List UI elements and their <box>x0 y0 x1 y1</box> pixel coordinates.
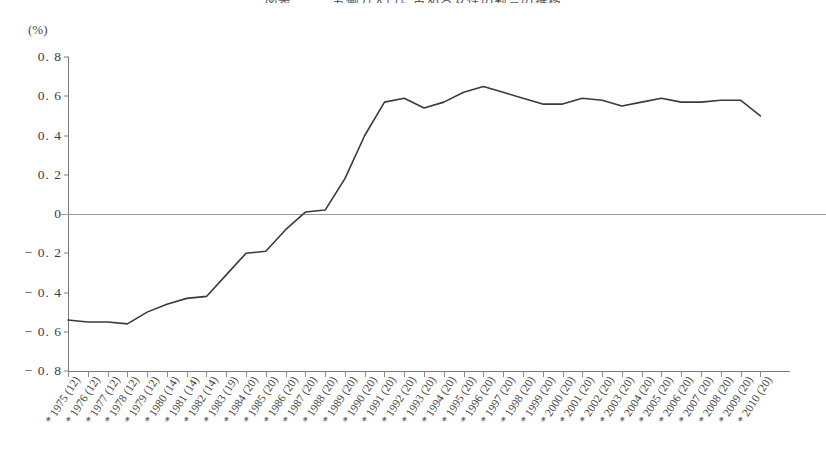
x-axis-tick-mark <box>68 371 69 377</box>
x-axis-tick-mark <box>325 371 326 377</box>
y-axis-tick-label: − 0. 6 <box>25 324 62 340</box>
zero-reference-line <box>60 214 826 215</box>
x-axis-tick-mark <box>167 371 168 377</box>
x-axis-tick-mark <box>266 371 267 377</box>
y-axis-tick-label: − 0. 8 <box>25 363 62 379</box>
y-axis-tick-label: 0. 2 <box>38 167 62 183</box>
x-axis-tick-mark <box>741 371 742 377</box>
x-axis-tick-mark <box>602 371 603 377</box>
x-axis-tick-mark <box>345 371 346 377</box>
x-axis-tick-mark <box>108 371 109 377</box>
chart-title: 図表 労働力人口に占める女性の割合の推移 <box>0 0 826 3</box>
x-axis-tick-mark <box>464 371 465 377</box>
y-axis-tick-mark <box>64 371 69 372</box>
x-axis-tick-mark <box>642 371 643 377</box>
x-axis-tick-mark <box>523 371 524 377</box>
y-axis-tick-label: 0. 6 <box>38 88 62 104</box>
x-axis-tick-mark <box>286 371 287 377</box>
y-axis-tick-mark <box>64 174 69 175</box>
x-axis-tick-mark <box>444 371 445 377</box>
x-axis-tick-mark <box>721 371 722 377</box>
y-axis-tick-label: − 0. 4 <box>25 285 62 301</box>
x-axis-tick-mark <box>563 371 564 377</box>
x-axis-tick-mark <box>543 371 544 377</box>
y-axis-tick-mark <box>64 135 69 136</box>
x-axis-tick-mark <box>187 371 188 377</box>
series-line-ratio <box>68 86 760 323</box>
y-axis-tick-mark <box>64 253 69 254</box>
y-axis-tick-label: 0. 8 <box>38 49 62 65</box>
figure-container: 図表 労働力人口に占める女性の割合の推移 (%) 0. 80. 60. 40. … <box>0 0 826 451</box>
y-axis-tick-label: − 0. 2 <box>25 245 62 261</box>
x-axis-tick-mark <box>701 371 702 377</box>
y-axis-labels: 0. 80. 60. 40. 20− 0. 2− 0. 4− 0. 6− 0. … <box>0 0 62 451</box>
x-axis-tick-mark <box>622 371 623 377</box>
y-axis-tick-mark <box>64 292 69 293</box>
y-axis-tick-mark <box>64 57 69 58</box>
x-axis-tick-mark <box>365 371 366 377</box>
y-axis-tick-mark <box>64 331 69 332</box>
y-axis-tick-mark <box>64 96 69 97</box>
x-axis-tick-mark <box>88 371 89 377</box>
x-axis-tick-mark <box>147 371 148 377</box>
y-axis-tick-label: 0. 4 <box>38 128 62 144</box>
x-axis-tick-mark <box>424 371 425 377</box>
x-axis-tick-mark <box>246 371 247 377</box>
